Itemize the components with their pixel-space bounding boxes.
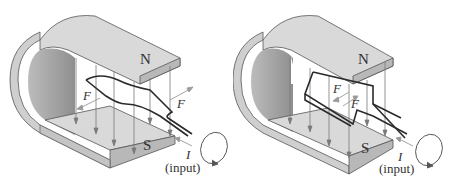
input-label: (input) <box>165 161 200 174</box>
figure-left-coil-flat: N S F F I (input) <box>0 0 233 188</box>
north-pole-label: N <box>140 52 151 67</box>
north-pole-label: N <box>358 52 369 67</box>
rotation-arrow-icon <box>411 131 446 170</box>
force-label-upper: F <box>333 82 341 95</box>
south-pole-label: S <box>361 141 369 156</box>
south-pole-label: S <box>143 138 151 153</box>
input-label: (input) <box>379 162 414 175</box>
force-label-right: F <box>177 97 185 110</box>
rotation-arrow-icon <box>196 129 231 168</box>
force-label-lower: F <box>351 97 359 110</box>
magnet-diagram-right <box>233 0 466 188</box>
force-label-left: F <box>83 89 91 102</box>
figure-right-coil-vertical: N S F F I (input) <box>233 0 466 188</box>
